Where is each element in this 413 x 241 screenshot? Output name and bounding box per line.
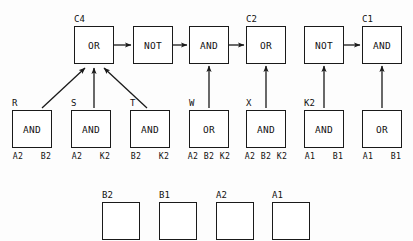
group-label-c1: C1 (362, 14, 373, 24)
input-label-a1: A1 (272, 190, 283, 200)
input-box-a1[interactable] (272, 202, 310, 240)
pin-label-s-k2: K2 (97, 151, 113, 161)
group-label-c4: C4 (74, 14, 85, 24)
group-label-x: X (246, 98, 252, 108)
logic-diagram-canvas: C4 OR NOT AND C2 OR NOT C1 AND R AND A2 … (0, 0, 413, 241)
gate-r[interactable]: AND (12, 110, 52, 148)
gate-not-1[interactable]: NOT (133, 26, 173, 64)
group-label-w: W (189, 98, 195, 108)
input-label-b2: B2 (102, 190, 113, 200)
group-label-k2: K2 (304, 98, 315, 108)
pin-label-k2-a1: A1 (302, 151, 318, 161)
input-box-b2[interactable] (102, 202, 140, 240)
group-label-r: R (12, 98, 18, 108)
pin-label-r-b2: B2 (38, 151, 54, 161)
pin-label-k2-b1: B1 (330, 151, 346, 161)
input-box-a2[interactable] (216, 202, 254, 240)
gate-c1-and[interactable]: AND (362, 26, 402, 64)
group-label-t: T (130, 98, 136, 108)
gate-x[interactable]: AND (246, 110, 286, 148)
pin-label-x-b2: B2 (259, 151, 273, 161)
pin-label-w-b2: B2 (202, 151, 216, 161)
group-label-c2: C2 (246, 14, 257, 24)
wire-gate-r-to-c4-or (42, 68, 85, 108)
gate-w[interactable]: OR (189, 110, 229, 148)
pin-label-or2-b1: B1 (388, 151, 404, 161)
gate-c4-or[interactable]: OR (74, 26, 114, 64)
pin-label-x-a2: A2 (243, 151, 257, 161)
pin-label-x-k2: K2 (275, 151, 289, 161)
gate-k2[interactable]: AND (304, 110, 344, 148)
pin-label-or2-a1: A1 (360, 151, 376, 161)
pin-label-w-a2: A2 (186, 151, 200, 161)
gate-not-2[interactable]: NOT (304, 26, 344, 64)
gate-and-1[interactable]: AND (189, 26, 229, 64)
gate-or-2[interactable]: OR (362, 110, 402, 148)
gate-c2-or[interactable]: OR (246, 26, 286, 64)
wire-gate-t-to-c4-or (104, 68, 147, 108)
pin-label-r-a2: A2 (10, 151, 26, 161)
input-box-b1[interactable] (159, 202, 197, 240)
group-label-s: S (71, 98, 77, 108)
pin-label-t-k2: K2 (156, 151, 172, 161)
pin-label-w-k2: K2 (218, 151, 232, 161)
gate-t[interactable]: AND (130, 110, 170, 148)
pin-label-t-b2: B2 (128, 151, 144, 161)
gate-s[interactable]: AND (71, 110, 111, 148)
pin-label-s-a2: A2 (69, 151, 85, 161)
input-label-b1: B1 (159, 190, 170, 200)
input-label-a2: A2 (216, 190, 227, 200)
